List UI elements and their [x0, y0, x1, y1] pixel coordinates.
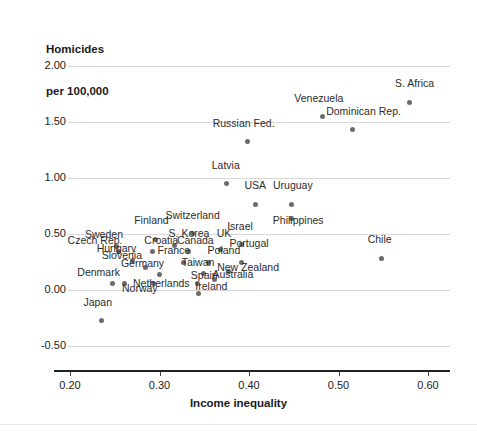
y-tick-label: 2.00	[24, 59, 66, 71]
data-point-label: Japan	[83, 296, 112, 308]
y-tick: 1.00	[0, 178, 66, 179]
data-point-label: Taiwan	[182, 256, 215, 268]
data-point-label: Switzerland	[165, 209, 219, 221]
y-tick-label: 0.50	[24, 227, 66, 239]
x-tick-label: 0.60	[398, 379, 458, 391]
data-point[interactable]	[289, 202, 294, 207]
y-tick: 0.50	[0, 234, 66, 235]
gridline-y	[68, 66, 450, 67]
data-point-label: Germany	[121, 257, 164, 269]
data-point[interactable]	[99, 318, 104, 323]
data-point-label: Latvia	[212, 159, 240, 171]
y-tick-label: 0.00	[24, 283, 66, 295]
x-axis-line	[54, 370, 450, 372]
x-tick-label: 0.20	[40, 379, 100, 391]
data-point[interactable]	[253, 202, 258, 207]
data-point-label: Norway	[122, 282, 158, 294]
data-point-label: Dominican Rep.	[326, 105, 401, 117]
y-tick: 1.50	[0, 122, 66, 123]
x-tick-label: 0.30	[130, 379, 190, 391]
y-tick-label: 1.00	[24, 171, 66, 183]
data-point-label: UK	[217, 227, 232, 239]
page-bottom-edge	[0, 424, 477, 425]
x-tick-label: 0.50	[309, 379, 369, 391]
data-point-label: Venezuela	[294, 92, 343, 104]
data-point-label: Finland	[134, 214, 168, 226]
data-point[interactable]	[245, 139, 250, 144]
data-point[interactable]	[379, 256, 384, 261]
data-point-label: Poland	[208, 244, 241, 256]
data-point[interactable]	[350, 127, 355, 132]
y-tick: 0.00	[0, 290, 66, 291]
y-tick: 2.00	[0, 66, 66, 67]
data-point[interactable]	[224, 181, 229, 186]
plot-area: 2.001.501.000.500.00-0.500.200.300.400.5…	[0, 0, 477, 441]
data-point[interactable]	[320, 114, 325, 119]
y-tick-label: 1.50	[24, 115, 66, 127]
y-tick: -0.50	[0, 346, 66, 347]
gridline-y	[68, 346, 450, 347]
data-point-label: USA	[244, 179, 266, 191]
x-axis-title: Income inequality	[0, 397, 477, 409]
data-point-label: Philippines	[273, 214, 324, 226]
data-point-label: Chile	[368, 233, 392, 245]
data-point-label: Russian Fed.	[213, 117, 275, 129]
gridline-y	[68, 234, 450, 235]
data-point-label: Denmark	[77, 266, 120, 278]
data-point[interactable]	[407, 100, 412, 105]
data-point-label: Spain	[191, 269, 218, 281]
data-point-label: Australia	[212, 268, 253, 280]
data-point-label: Ireland	[195, 280, 227, 292]
x-tick-label: 0.40	[219, 379, 279, 391]
scatter-chart: Homicides per 100,000 2.001.501.000.500.…	[0, 0, 477, 441]
data-point-label: Uruguay	[273, 179, 313, 191]
data-point[interactable]	[150, 249, 155, 254]
data-point-label: S. Africa	[395, 77, 434, 89]
y-tick-label: -0.50	[24, 339, 66, 351]
data-point-label: France	[157, 244, 190, 256]
data-point[interactable]	[110, 281, 115, 286]
